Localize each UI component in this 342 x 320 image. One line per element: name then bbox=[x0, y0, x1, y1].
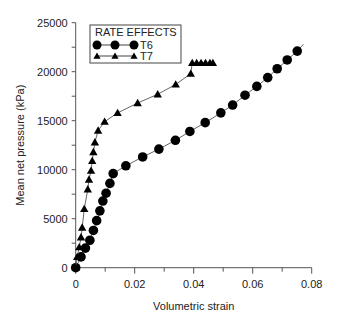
data-point-circle bbox=[272, 64, 282, 74]
data-point-triangle bbox=[133, 99, 141, 106]
data-point-triangle bbox=[100, 117, 108, 124]
y-tick-label: 5000 bbox=[43, 213, 67, 225]
data-point-triangle bbox=[154, 90, 162, 97]
y-tick-label: 15000 bbox=[37, 115, 68, 127]
data-point-circle bbox=[171, 136, 181, 146]
x-tick-label: 0 bbox=[73, 278, 79, 290]
x-tick-label: 0.06 bbox=[242, 278, 263, 290]
data-point-triangle bbox=[84, 185, 92, 192]
data-point-triangle bbox=[187, 69, 195, 76]
legend-marker-circle bbox=[111, 41, 120, 50]
data-point-triangle bbox=[85, 175, 93, 182]
y-tick-label: 20000 bbox=[37, 66, 68, 78]
x-tick-label: 0.08 bbox=[301, 278, 322, 290]
data-point-circle bbox=[89, 226, 99, 236]
y-tick-label: 0 bbox=[62, 262, 68, 274]
data-point-triangle bbox=[78, 223, 86, 230]
data-point-triangle bbox=[91, 138, 99, 145]
data-point-circle bbox=[228, 100, 238, 110]
x-axis-label: Volumetric strain bbox=[153, 300, 234, 312]
data-point-triangle bbox=[172, 80, 180, 87]
y-axis-label: Mean net pressure (kPa) bbox=[14, 85, 26, 206]
data-point-triangle bbox=[80, 205, 88, 212]
legend-title: RATE EFFECTS bbox=[95, 26, 177, 38]
data-point-triangle bbox=[89, 148, 97, 155]
data-point-triangle bbox=[87, 166, 95, 173]
data-point-circle bbox=[263, 73, 273, 83]
data-point-circle bbox=[101, 188, 111, 198]
y-tick-label: 10000 bbox=[37, 164, 68, 176]
data-point-circle bbox=[240, 90, 250, 100]
legend-marker-circle bbox=[93, 41, 102, 50]
data-point-circle bbox=[185, 127, 195, 137]
data-point-circle bbox=[121, 161, 131, 171]
data-point-circle bbox=[85, 235, 95, 245]
data-point-circle bbox=[292, 46, 302, 56]
data-point-circle bbox=[138, 152, 148, 162]
data-point-circle bbox=[95, 206, 105, 216]
data-point-circle bbox=[200, 118, 210, 128]
data-point-triangle bbox=[94, 126, 102, 133]
data-point-circle bbox=[282, 55, 292, 65]
legend-marker-circle bbox=[130, 41, 139, 50]
data-point-circle bbox=[92, 216, 102, 226]
data-point-triangle bbox=[113, 109, 121, 116]
legend-label-t7: T7 bbox=[140, 50, 153, 62]
data-point-triangle bbox=[77, 233, 85, 240]
data-point-circle bbox=[216, 108, 226, 118]
series-line-t7 bbox=[76, 63, 213, 268]
data-point-circle bbox=[105, 179, 115, 189]
data-point-circle bbox=[154, 144, 164, 154]
x-tick-label: 0.04 bbox=[183, 278, 204, 290]
data-point-triangle bbox=[88, 157, 96, 164]
x-tick-label: 0.02 bbox=[124, 278, 145, 290]
y-tick-label: 25000 bbox=[37, 17, 68, 29]
data-point-circle bbox=[252, 82, 262, 92]
data-point-circle bbox=[108, 169, 118, 179]
chart: 050001000015000200002500000.020.040.060.… bbox=[0, 0, 342, 320]
